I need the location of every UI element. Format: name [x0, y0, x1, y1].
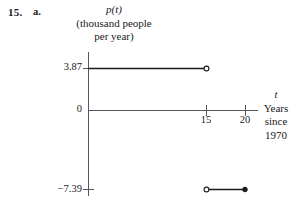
x-axis-title: t Years since 1970	[252, 88, 300, 142]
x-axis-title-line3: 1970	[265, 129, 287, 141]
y-tick-label-387: 3.87	[46, 61, 82, 72]
figure-page: 15. a. p(t) (thousand people per year) 3…	[0, 0, 302, 202]
x-axis-title-line1: Years	[264, 102, 289, 114]
y-tick-label-neg739: −7.39	[38, 183, 82, 194]
x-axis-variable: t	[274, 88, 277, 100]
y-tick-label-0: 0	[50, 103, 82, 114]
x-tick-label-15: 15	[196, 114, 216, 125]
open-endpoint-upper-right	[204, 66, 209, 71]
x-axis-title-line2: since	[265, 115, 288, 127]
closed-endpoint-lower-right	[243, 187, 248, 192]
open-endpoint-lower-left	[204, 187, 209, 192]
